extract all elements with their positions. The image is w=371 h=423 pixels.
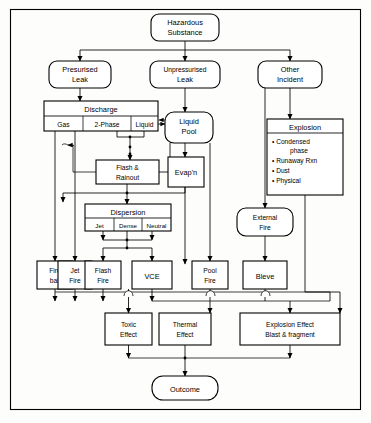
explosion-item-1: phase: [290, 147, 308, 155]
node-evapn[interactable]: Evap'n: [168, 157, 204, 187]
node-dispersion[interactable]: Dispersion Jet Dense Neutral: [85, 204, 171, 231]
node-explosion[interactable]: Explosion • Condensed phase • Runaway Rx…: [267, 119, 343, 195]
node-label-line1: External: [253, 214, 278, 221]
node-outcome[interactable]: Outcome: [152, 376, 218, 400]
explosion-item-4: • Physical: [272, 177, 301, 185]
node-flash-fire[interactable]: Flash Fire: [85, 261, 121, 289]
discharge-cell-2phase[interactable]: 2-Phase: [95, 121, 120, 128]
node-label-line1: Bleve: [256, 272, 275, 281]
node-external-fire[interactable]: External Fire: [237, 208, 293, 236]
node-label-line2: Fire: [204, 277, 216, 284]
node-label-line1: Liquid: [179, 117, 199, 126]
node-label-line1: Flash &: [116, 164, 139, 171]
node-label-line2: Fire: [259, 224, 271, 231]
node-discharge[interactable]: Discharge Gas 2-Phase Liquid: [44, 101, 158, 131]
discharge-cell-liquid[interactable]: Liquid: [136, 121, 154, 129]
node-label-line1: Thermal: [173, 321, 198, 328]
discharge-header: Discharge: [84, 105, 117, 114]
node-bleve[interactable]: Bleve: [243, 261, 287, 289]
dispersion-header: Dispersion: [111, 208, 146, 217]
node-label-line1: Hazardous: [167, 18, 203, 27]
node-other-incident[interactable]: Other Incident: [258, 61, 322, 88]
dispersion-cell-dense[interactable]: Dense: [119, 222, 137, 229]
node-label-line1: Evap'n: [175, 168, 197, 177]
node-label-line1: Toxic: [121, 321, 137, 328]
discharge-cell-gas[interactable]: Gas: [57, 121, 70, 128]
node-label-line2: Leak: [177, 75, 193, 84]
node-presurised-leak[interactable]: Presurised Leak: [49, 61, 111, 88]
node-label-line1: Flash: [95, 267, 112, 274]
node-unpressurised-leak[interactable]: Unpressurised Leak: [150, 61, 220, 88]
dispersion-cell-jet[interactable]: Jet: [95, 222, 104, 229]
explosion-item-0: • Condensed: [272, 138, 310, 145]
node-label-line2: Incident: [277, 75, 303, 84]
node-label-line1: Presurised: [62, 65, 97, 74]
node-label-line2: Leak: [72, 75, 88, 84]
node-label-line1: Outcome: [170, 385, 200, 394]
explosion-item-2: • Runaway Rxn: [272, 157, 318, 165]
node-label-line1: Unpressurised: [163, 66, 206, 74]
dispersion-cell-neutral[interactable]: Neutral: [147, 222, 167, 229]
node-label-line1: Jet: [71, 267, 80, 274]
node-label-line2: Effect: [120, 331, 137, 338]
node-label-line2: Rainout: [116, 174, 139, 181]
node-vce[interactable]: VCE: [132, 261, 172, 289]
node-label-line1: Other: [281, 65, 300, 74]
explosion-header: Explosion: [289, 123, 321, 132]
node-thermal-effect[interactable]: Thermal Effect: [159, 313, 211, 345]
node-label-line2: Effect: [177, 331, 194, 338]
explosion-item-3: • Dust: [272, 167, 290, 174]
node-label-line2: Fire: [69, 277, 81, 284]
node-explosion-effect[interactable]: Explosion Effect Blast & fragment: [240, 313, 340, 345]
node-liquid-pool[interactable]: Liquid Pool: [165, 112, 213, 143]
node-flash-rainout[interactable]: Flash & Rainout: [96, 160, 159, 184]
node-label-line2: Blast & fragment: [265, 331, 315, 339]
node-hazardous-substance[interactable]: Hazardous Substance: [151, 14, 219, 41]
node-label-line2: Pool: [182, 127, 197, 136]
flowchart-diagram: Hazardous Substance Presurised Leak Unpr…: [0, 0, 371, 423]
node-toxic-effect[interactable]: Toxic Effect: [105, 313, 152, 345]
node-label-line2: Substance: [168, 28, 203, 37]
node-label-line1: Explosion Effect: [266, 321, 314, 329]
node-label-line2: Fire: [97, 277, 109, 284]
node-pool-fire[interactable]: Pool Fire: [192, 261, 228, 289]
node-label-line1: VCE: [144, 272, 159, 281]
node-label-line1: Pool: [203, 267, 217, 274]
